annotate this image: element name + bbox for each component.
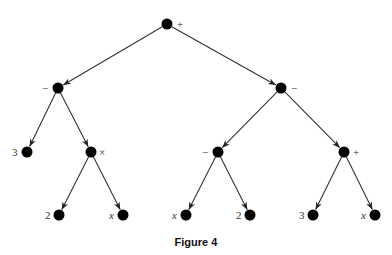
node-label: x: [171, 209, 177, 221]
tree-node: [53, 83, 64, 94]
node-label: 2: [236, 209, 242, 221]
tree-node: [276, 83, 287, 94]
tree-edge: [222, 92, 277, 148]
tree-node: [245, 210, 256, 221]
node-label: 2: [45, 209, 51, 221]
tree-edges: [30, 27, 373, 210]
tree-edge: [346, 157, 372, 210]
tree-edge: [189, 157, 216, 210]
tree-edge: [316, 157, 342, 210]
expression-tree-diagram: +−−3×−+2xx23x Figure 4: [0, 0, 392, 255]
node-label: ×: [99, 146, 105, 158]
node-label: x: [360, 209, 366, 221]
tree-node: [213, 147, 224, 158]
tree-edge: [30, 93, 56, 147]
tree-node: [162, 19, 173, 30]
node-label: 3: [299, 209, 305, 221]
node-label: +: [353, 146, 359, 158]
node-label: x: [108, 209, 114, 221]
tree-node: [308, 210, 319, 221]
node-label: −: [291, 82, 297, 94]
tree-edge: [62, 157, 89, 210]
tree-edge: [61, 93, 89, 147]
tree-edge: [220, 157, 247, 210]
tree-node: [339, 147, 350, 158]
node-label: −: [42, 82, 48, 94]
tree-node: [22, 147, 33, 158]
tree-node: [54, 210, 65, 221]
node-label: +: [177, 18, 183, 30]
tree-node: [86, 147, 97, 158]
tree-edge: [93, 157, 120, 210]
tree-edge: [172, 27, 276, 85]
figure-caption: Figure 4: [175, 236, 219, 248]
tree-edge: [285, 92, 340, 148]
tree-node: [118, 210, 129, 221]
tree-edge: [63, 27, 162, 85]
tree-node: [181, 210, 192, 221]
node-label: −: [202, 146, 208, 158]
node-label: 3: [12, 146, 18, 158]
tree-node: [370, 210, 381, 221]
